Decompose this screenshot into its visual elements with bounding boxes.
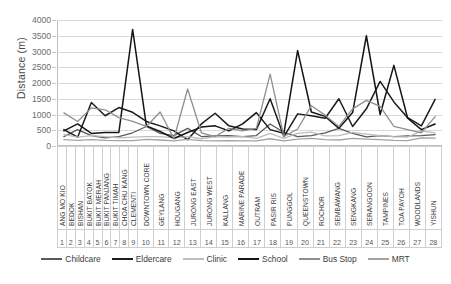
category-label: BUKIT BATOK: [85, 182, 92, 226]
y-axis-tick-label: 1000: [32, 110, 51, 120]
category-number: 19: [281, 230, 297, 248]
category-label: KALLANG: [221, 195, 228, 226]
legend-item-eldercare[interactable]: Eldercare: [112, 254, 172, 264]
category-label: SERANGOON: [366, 182, 373, 226]
category-label-cell: WOODLANDS: [409, 147, 425, 230]
category-label-cell: BISHAN: [75, 147, 84, 230]
legend-label: School: [262, 254, 288, 264]
category-number: 27: [409, 230, 425, 248]
category-label-cell: PUNGGOL: [281, 147, 297, 230]
category-label: BISHAN: [76, 201, 83, 226]
category-number: 25: [377, 230, 393, 248]
legend-label: Clinic: [207, 254, 227, 264]
y-axis-tick-label: 0: [46, 141, 51, 151]
category-label-row: ANG MO KIOBEDOKBISHANBUKIT BATOKBUKIT ME…: [58, 147, 442, 230]
category-label: DOWNTOWN CORE: [142, 163, 149, 226]
category-label-cell: PASIR RIS: [265, 147, 281, 230]
category-label: SENGKANG: [350, 188, 357, 226]
y-axis-tick-label: 3500: [32, 31, 51, 41]
y-axis-tick-mark: [52, 52, 56, 53]
category-number: 18: [265, 230, 281, 248]
category-label-cell: ROCHOR: [313, 147, 329, 230]
category-number: 13: [185, 230, 201, 248]
legend-label: Childcare: [65, 254, 100, 264]
category-label: PASIR RIS: [269, 193, 276, 226]
category-label: TAMPINES: [382, 192, 389, 226]
category-label-cell: TAMPINES: [377, 147, 393, 230]
category-label: QUEENSTOWN: [302, 177, 309, 226]
category-number: 24: [361, 230, 377, 248]
y-axis-tick-mark: [52, 83, 56, 84]
y-axis-tick-label: 2500: [32, 62, 51, 72]
y-axis-tick-label: 1500: [32, 94, 51, 104]
legend-label: MRT: [392, 254, 410, 264]
category-number: 22: [329, 230, 345, 248]
category-label-cell: SENGKANG: [345, 147, 361, 230]
category-label-cell: GEYLANG: [154, 147, 169, 230]
legend-swatch-icon: [112, 258, 133, 260]
category-label-cell: HOUGANG: [169, 147, 185, 230]
category-label-cell: MARINE PARADE: [233, 147, 249, 230]
category-label-cell: SERANGOON: [361, 147, 377, 230]
y-axis-tick-labels: 40003500300025002000150010005000: [0, 0, 57, 146]
category-label-cell: CHOA CHU KANG: [120, 147, 129, 230]
legend-item-childcare[interactable]: Childcare: [41, 254, 100, 264]
category-label: ANG MO KIO: [58, 185, 65, 226]
y-axis-tick-mark: [52, 115, 56, 116]
category-number-row: 1234567891011121314151617181920212223242…: [58, 230, 442, 248]
category-number: 16: [233, 230, 249, 248]
category-label: BUKIT TIMAH: [112, 183, 119, 226]
y-axis-tick-mark: [52, 130, 56, 131]
category-label-cell: SEMBAWANG: [329, 147, 345, 230]
category-label-cell: KALLANG: [217, 147, 233, 230]
legend-swatch-icon: [183, 258, 204, 260]
legend-swatch-icon: [299, 258, 320, 260]
legend-item-clinic[interactable]: Clinic: [183, 254, 227, 264]
category-label: MARINE PARADE: [237, 171, 244, 226]
y-axis-tick-label: 3000: [32, 47, 51, 57]
category-label: SEMBAWANG: [334, 182, 341, 226]
category-number: 7: [111, 230, 120, 248]
y-axis-tick-mark: [52, 67, 56, 68]
legend-item-mrt[interactable]: MRT: [368, 254, 410, 264]
category-number: 3: [75, 230, 84, 248]
category-label-cell: BUKIT MERAH: [93, 147, 102, 230]
category-number: 1: [58, 230, 67, 248]
legend-label: Bus Stop: [323, 254, 357, 264]
legend-item-bus-stop[interactable]: Bus Stop: [299, 254, 357, 264]
category-label: GEYLANG: [158, 193, 165, 226]
y-axis-tick-mark: [52, 146, 56, 147]
category-label-cell: TOA PAYOH: [393, 147, 409, 230]
category-label-cell: JURONG EAST: [185, 147, 201, 230]
category-label-cell: DOWNTOWN CORE: [138, 147, 154, 230]
category-number: 11: [154, 230, 169, 248]
category-label: OUTRAM: [253, 197, 260, 226]
legend-label: Eldercare: [136, 254, 172, 264]
category-label: ROCHOR: [318, 196, 325, 226]
legend-swatch-icon: [368, 258, 389, 260]
y-axis-tick-label: 500: [37, 125, 51, 135]
y-axis-tick-mark: [52, 99, 56, 100]
y-axis-tick-mark: [52, 20, 56, 21]
category-number: 26: [393, 230, 409, 248]
line-chart: Distance (m) 400035003000250020001500100…: [0, 0, 451, 284]
category-number: 8: [120, 230, 129, 248]
category-number: 9: [129, 230, 138, 248]
legend-item-school[interactable]: School: [238, 254, 288, 264]
category-label: JURONG EAST: [189, 178, 196, 226]
y-axis-tick-label: 2000: [32, 78, 51, 88]
category-label-cell: BUKIT PANJANG: [102, 147, 111, 230]
category-axis-table: ANG MO KIOBEDOKBISHANBUKIT BATOKBUKIT ME…: [57, 146, 442, 248]
plot-area: [57, 20, 442, 146]
y-axis-tick-label: 4000: [32, 15, 51, 25]
series-lines: [57, 20, 442, 146]
category-number: 23: [345, 230, 361, 248]
category-label-cell: OUTRAM: [249, 147, 265, 230]
y-axis-tick-mark: [52, 36, 56, 37]
category-number: 5: [93, 230, 102, 248]
category-label: TOA PAYOH: [398, 188, 405, 226]
category-number: 6: [102, 230, 111, 248]
category-number: 20: [297, 230, 313, 248]
category-label: CLEMENTI: [130, 192, 137, 226]
category-label: YISHUN: [430, 200, 437, 226]
